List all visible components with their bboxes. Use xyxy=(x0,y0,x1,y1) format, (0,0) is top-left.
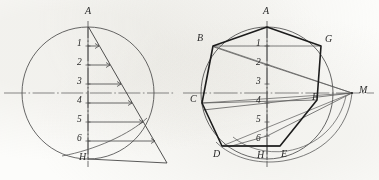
left-label-4: 4 xyxy=(77,96,82,106)
right-label-G: G xyxy=(325,34,332,44)
left-label-H: H xyxy=(79,152,86,162)
right-label-5: 5 xyxy=(256,115,261,125)
right-label-H: H xyxy=(257,150,264,160)
right-label-M: M xyxy=(359,85,367,95)
left-triangle-base xyxy=(88,159,167,163)
left-label-3: 3 xyxy=(77,77,82,87)
left-label-6: 6 xyxy=(77,134,82,144)
right-label-4: 4 xyxy=(256,96,261,106)
left-construction-arc xyxy=(62,118,147,156)
left-label-A: A xyxy=(85,6,91,16)
right-panel-group xyxy=(183,21,374,167)
right-label-2: 2 xyxy=(256,58,261,68)
right-label-D: D xyxy=(213,149,220,159)
right-label-1: 1 xyxy=(256,39,261,49)
left-auxiliary-ray xyxy=(89,27,168,163)
ray-M-to-B xyxy=(213,46,352,93)
left-panel-group xyxy=(4,21,175,167)
right-label-F: F xyxy=(312,92,318,102)
drawing-sheet: A 1 2 3 4 5 6 H A B G C F D E H M 1 2 3 … xyxy=(0,0,379,180)
left-label-1: 1 xyxy=(77,39,82,49)
right-label-A: A xyxy=(263,6,269,16)
right-label-C: C xyxy=(190,94,197,104)
right-label-E: E xyxy=(281,149,287,159)
right-label-6: 6 xyxy=(256,134,261,144)
left-label-2: 2 xyxy=(77,58,82,68)
left-label-5: 5 xyxy=(77,115,82,125)
right-label-B: B xyxy=(197,33,203,43)
inscribed-heptagon xyxy=(202,27,321,146)
pole-point-M xyxy=(351,92,353,94)
right-label-3: 3 xyxy=(256,77,261,87)
construction-drawing-canvas xyxy=(0,0,379,180)
